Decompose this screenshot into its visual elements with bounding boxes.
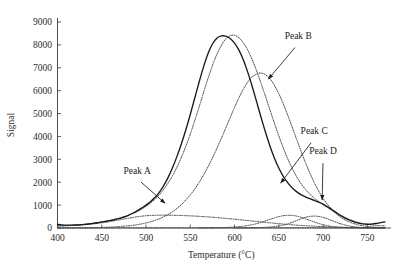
annotation-arrow-line	[281, 143, 312, 184]
y-tick-label: 8000	[33, 40, 52, 50]
annotation-peak-b: Peak B	[285, 31, 312, 41]
x-tick-label: 600	[227, 233, 242, 243]
y-tick-label: 3000	[33, 155, 52, 165]
y-tick-label: 5000	[33, 109, 52, 119]
y-tick-label: 6000	[33, 86, 52, 96]
x-tick-label: 700	[316, 233, 331, 243]
series-fitted-sum	[58, 35, 386, 226]
y-tick-label: 2000	[33, 178, 52, 188]
y-tick-label: 0	[47, 223, 52, 233]
x-tick-label: 550	[183, 233, 198, 243]
plot-axes	[58, 18, 392, 228]
annotation-arrow-line	[322, 163, 323, 200]
y-axis-tick-labels: 0100020003000400050006000700080009000	[33, 17, 52, 233]
y-axis-title: Signal	[6, 113, 16, 138]
x-tick-label: 400	[50, 233, 65, 243]
annotation-arrow-line	[268, 47, 295, 79]
chart-figure: 0100020003000400050006000700080009000 40…	[0, 0, 404, 269]
x-axis-tick-labels: 400450500550600650700750	[50, 233, 374, 243]
x-tick-label: 450	[95, 233, 110, 243]
y-tick-label: 4000	[33, 132, 52, 142]
chart-series-layer	[58, 35, 386, 228]
x-tick-label: 500	[139, 233, 154, 243]
y-tick-label: 7000	[33, 63, 52, 73]
y-tick-label: 9000	[33, 17, 52, 27]
annotation-peak-d: Peak D	[309, 146, 337, 156]
x-axis-title: Temperature (°C)	[188, 250, 255, 261]
y-axis-ticks	[58, 22, 62, 228]
annotation-peak-c: Peak C	[301, 126, 328, 136]
x-tick-label: 650	[272, 233, 287, 243]
signal-deconvolution-chart: 0100020003000400050006000700080009000 40…	[0, 0, 404, 269]
annotation-peak-a: Peak A	[124, 166, 151, 176]
x-tick-label: 750	[360, 233, 375, 243]
y-tick-label: 1000	[33, 201, 52, 211]
series-measured-signal	[58, 36, 386, 225]
